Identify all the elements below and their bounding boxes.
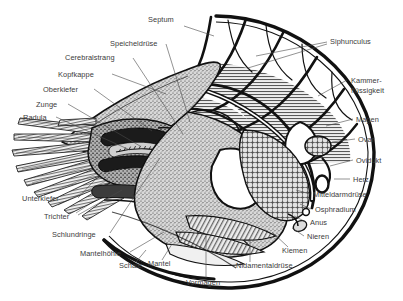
label-kammerfluessigkeit: Kammer-flüssigkeit	[351, 76, 384, 95]
osphradium	[303, 209, 310, 216]
labels-multiline-group: Kammer-flüssigkeit	[351, 76, 384, 95]
label-vormagen: Vormagen	[186, 278, 220, 287]
label-herz: Herz	[353, 175, 369, 184]
label-trichter: Trichter	[44, 212, 70, 221]
label-schlundringe: Schlundringe	[52, 230, 96, 239]
label-kammerfluessigkeit-line2: flüssigkeit	[351, 86, 384, 95]
ovary	[305, 136, 331, 156]
label-nidamentaldruese: Nidamentaldrüse	[236, 261, 293, 270]
label-kammerfluessigkeit-line1: Kammer-	[351, 76, 382, 85]
label-kiemen: Kiemen	[282, 246, 307, 255]
label-magen: Magen	[356, 115, 379, 124]
label-speicheldruese: Speicheldrüse	[110, 39, 158, 48]
label-unterkiefer: Unterkiefer	[22, 194, 59, 203]
label-nieren: Nieren	[307, 232, 329, 241]
label-anus: Anus	[310, 218, 327, 227]
label-radula: Radula	[23, 113, 48, 122]
nautilus-anatomy-figure: SeptumSpeicheldrüseCerebralstrangKopfkap…	[0, 0, 403, 301]
label-septum: Septum	[148, 15, 174, 24]
figure-artwork: SeptumSpeicheldrüseCerebralstrangKopfkap…	[12, 15, 384, 288]
label-kopfkappe: Kopfkappe	[58, 70, 94, 79]
label-schale: Schale	[119, 261, 142, 270]
label-osphradium: Osphradium	[315, 205, 356, 214]
label-mitteldarmdruese: Mitteldarmdrüse	[313, 190, 367, 199]
label-zunge: Zunge	[36, 100, 57, 109]
label-siphunculus: Siphunculus	[330, 37, 371, 46]
label-cerebralstrang: Cerebralstrang	[65, 53, 115, 62]
label-oberkiefer: Oberkiefer	[43, 85, 78, 94]
label-mantelhoehle: Mantelhöhle	[80, 249, 121, 258]
label-mantel: Mantel	[148, 259, 171, 268]
label-ovidukt: Ovidukt	[356, 156, 381, 165]
label-ovar: Ovar	[358, 135, 375, 144]
